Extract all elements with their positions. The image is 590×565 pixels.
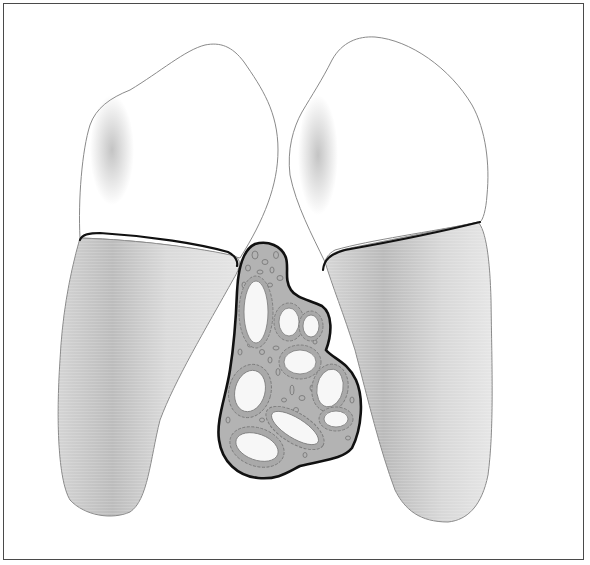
dental-illustration <box>0 0 590 565</box>
lumen-7 <box>319 407 353 431</box>
right-crown-shade <box>298 95 338 215</box>
lumen-3 <box>299 311 323 341</box>
left-crown-shade <box>90 95 134 205</box>
lumen-4 <box>279 345 321 379</box>
lumen-1 <box>239 276 273 348</box>
